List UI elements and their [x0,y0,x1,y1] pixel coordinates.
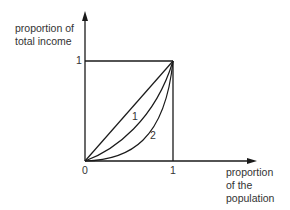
y-tick-1: 1 [76,54,82,67]
x-tick-1: 1 [170,164,176,177]
x-axis-label-line3: population [226,192,274,205]
equality-line [85,61,173,161]
y-axis-label-line2: total income [15,35,74,48]
x-axis-label-line1: proportion [226,166,274,179]
curve-1-label: 1 [132,110,138,123]
x-axis-label: proportion of the population [226,166,274,205]
y-axis-label: proportion of total income [15,22,74,48]
y-axis-label-line1: proportion of [15,22,74,35]
x-tick-0: 0 [82,164,88,177]
y-axis-arrow-icon [82,11,88,21]
x-axis-arrow-icon [247,158,257,164]
x-axis-label-line2: of the [226,179,274,192]
curve-2-label: 2 [150,129,156,142]
